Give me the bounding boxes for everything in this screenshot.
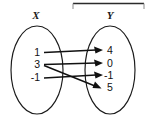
domain-element-0: 1 (34, 46, 40, 58)
mapping-arrow-1-to-4 (44, 47, 103, 54)
mapping-arrow-3-to-0 (44, 60, 103, 67)
domain-element-2: -1 (31, 71, 40, 83)
mapping-diagram-canvas: X Y 1 3 -1 4 0 -1 5 (0, 0, 146, 128)
domain-set-label: X (31, 9, 40, 21)
range-element-3: 5 (107, 81, 113, 93)
range-element-2: -1 (104, 69, 113, 81)
range-element-0: 4 (107, 44, 113, 56)
mapping-diagram-figure: X Y 1 3 -1 4 0 -1 5 (0, 0, 146, 128)
domain-element-1: 3 (34, 58, 40, 70)
range-set-label: Y (107, 9, 115, 21)
range-element-1: 0 (107, 57, 113, 69)
